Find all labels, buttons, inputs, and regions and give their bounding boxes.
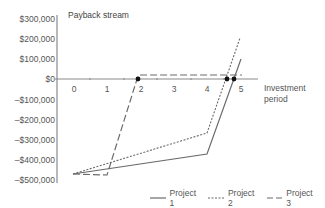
legend-label: Project 2 bbox=[228, 188, 261, 208]
legend-item-project-3: Project 3 bbox=[267, 188, 319, 208]
legend-swatch-solid bbox=[150, 194, 166, 202]
series-project-2 bbox=[73, 38, 240, 174]
payback-dot-project-3 bbox=[136, 77, 141, 82]
legend-swatch-dashed bbox=[267, 194, 283, 202]
legend-label: Project 1 bbox=[170, 188, 203, 208]
legend-swatch-dotted bbox=[208, 194, 224, 202]
payback-dot-project-1 bbox=[232, 77, 237, 82]
legend-label: Project 3 bbox=[286, 188, 319, 208]
legend-item-project-2: Project 2 bbox=[208, 188, 260, 208]
legend: Project 1 Project 2 Project 3 bbox=[150, 188, 325, 208]
plot-area bbox=[0, 0, 325, 208]
series-project-1 bbox=[73, 59, 241, 174]
series-project-3 bbox=[73, 75, 242, 175]
legend-item-project-1: Project 1 bbox=[150, 188, 202, 208]
payback-dot-project-2 bbox=[225, 77, 230, 82]
